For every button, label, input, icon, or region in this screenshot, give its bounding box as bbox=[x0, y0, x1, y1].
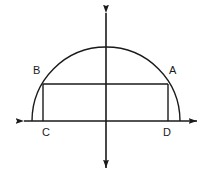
vertex-label-B: B bbox=[33, 65, 40, 76]
vertex-label-C: C bbox=[42, 127, 50, 138]
geometry-canvas bbox=[0, 0, 218, 183]
vertex-label-A: A bbox=[169, 65, 176, 76]
geometry-figure: B A C D bbox=[0, 0, 218, 183]
vertex-label-D: D bbox=[163, 127, 171, 138]
